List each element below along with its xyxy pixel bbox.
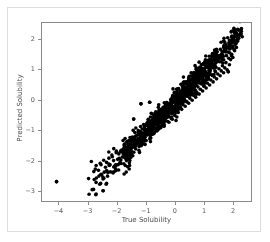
- x-tick-label: 0: [165, 207, 185, 215]
- x-tick-label: −2: [107, 207, 127, 215]
- y-tick-mark: [38, 69, 41, 70]
- x-tick-mark: [204, 202, 205, 205]
- x-tick-label: −4: [48, 207, 68, 215]
- y-tick-label: −3: [17, 187, 35, 195]
- x-tick-mark: [233, 202, 234, 205]
- x-tick-label: −3: [78, 207, 98, 215]
- y-tick-label: 2: [17, 35, 35, 43]
- x-tick-mark: [175, 202, 176, 205]
- x-tick-mark: [58, 202, 59, 205]
- x-tick-mark: [146, 202, 147, 205]
- x-tick-label: 1: [194, 207, 214, 215]
- x-tick-mark: [88, 202, 89, 205]
- y-tick-mark: [38, 39, 41, 40]
- x-tick-label: 2: [223, 207, 243, 215]
- scatter-points-layer: [42, 23, 252, 202]
- y-tick-mark: [38, 191, 41, 192]
- y-tick-mark: [38, 161, 41, 162]
- y-axis-label: Predicted Solubility: [16, 48, 24, 168]
- y-tick-mark: [38, 130, 41, 131]
- y-tick-mark: [38, 100, 41, 101]
- x-tick-label: −1: [136, 207, 156, 215]
- figure-container: −4−3−2−1012 −3−2−1012 True Solubility Pr…: [0, 0, 270, 242]
- scatter-plot-axes: [41, 22, 252, 202]
- x-tick-mark: [117, 202, 118, 205]
- x-axis-label: True Solubility: [41, 216, 252, 224]
